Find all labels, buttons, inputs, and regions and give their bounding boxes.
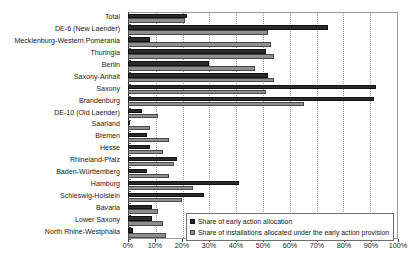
x-axis-tick-label: 40% — [229, 241, 243, 250]
bar — [128, 157, 177, 161]
bar — [128, 150, 163, 154]
x-axis-tick-label: 60% — [283, 241, 297, 250]
y-axis-category-label: Bavaria — [0, 203, 124, 215]
bar — [128, 181, 239, 185]
bar-row — [128, 36, 398, 48]
y-axis-category-label: Hesse — [0, 143, 124, 155]
bar-row — [128, 96, 398, 108]
bar — [128, 85, 376, 89]
bar-row — [128, 108, 398, 120]
bar — [128, 25, 328, 29]
x-axis-tick-label: 50% — [256, 241, 270, 250]
y-axis-category-label: Berlin — [0, 60, 124, 72]
bar — [128, 198, 182, 202]
x-axis-tick-labels: 0%10%20%30%40%50%60%70%80%90%100% — [128, 241, 398, 255]
bar — [128, 66, 255, 70]
y-axis-category-label: Rhineland-Pfalz — [0, 155, 124, 167]
y-axis-category-label: Baden-Württemberg — [0, 167, 124, 179]
bar — [128, 30, 268, 34]
y-axis-category-labels: TotalDE-6 (New Laender)Mecklenburg-Weste… — [0, 12, 124, 239]
y-axis-category-label: Hamburg — [0, 179, 124, 191]
y-axis-category-label: North Rhine-Westphalia — [0, 227, 124, 239]
y-axis-category-label: Bremen — [0, 131, 124, 143]
bar — [128, 14, 187, 18]
bar-row — [128, 84, 398, 96]
bar — [128, 73, 268, 77]
chart-legend: Share of early action allocation Share o… — [186, 213, 394, 241]
legend-item-early-action-allocation: Share of early action allocation — [190, 216, 389, 227]
bar — [128, 216, 152, 220]
bar — [128, 114, 158, 118]
figure-caption — [6, 262, 416, 271]
bar — [128, 174, 169, 178]
bar — [128, 205, 152, 209]
y-axis-category-label: DE-10 (Old Laender) — [0, 108, 124, 120]
bar-row — [128, 119, 398, 131]
bar — [128, 221, 163, 225]
y-axis-category-label: Thuringia — [0, 48, 124, 60]
bar-row — [128, 179, 398, 191]
bar — [128, 37, 150, 41]
bar-row — [128, 12, 398, 24]
bar — [128, 209, 158, 213]
x-axis-tick-label: 20% — [175, 241, 189, 250]
bar — [128, 126, 150, 130]
bar — [128, 186, 193, 190]
bar — [128, 138, 169, 142]
bar-row — [128, 60, 398, 72]
bar — [128, 109, 142, 113]
bar — [128, 169, 147, 173]
legend-swatch-dark-icon — [190, 219, 195, 224]
bar — [128, 228, 133, 232]
bar-row — [128, 131, 398, 143]
x-axis-tick-label: 100% — [389, 241, 407, 250]
x-axis-tick-label: 90% — [364, 241, 378, 250]
legend-item-installations-share: Share of installations allocated under t… — [190, 227, 389, 238]
bar-row — [128, 48, 398, 60]
y-axis-category-label: Schleswig-Holstein — [0, 191, 124, 203]
bar-row — [128, 72, 398, 84]
bar-row — [128, 191, 398, 203]
y-axis-category-label: Saxony-Anhalt — [0, 72, 124, 84]
plot-wrapper: TotalDE-6 (New Laender)Mecklenburg-Weste… — [0, 4, 419, 240]
bar-row — [128, 155, 398, 167]
legend-swatch-light-icon — [190, 230, 195, 235]
x-axis-tick-label: 80% — [337, 241, 351, 250]
bar — [128, 61, 209, 65]
bar — [128, 42, 271, 46]
y-axis-category-label: Lower Saxony — [0, 215, 124, 227]
y-axis-category-label: Mecklenburg-Western Pomerania — [0, 36, 124, 48]
x-axis-tick-label: 10% — [148, 241, 162, 250]
bar-row — [128, 24, 398, 36]
y-axis-category-label: Brandenburg — [0, 96, 124, 108]
bar — [128, 121, 130, 125]
y-axis-category-label: Total — [0, 12, 124, 24]
bar — [128, 97, 374, 101]
bar-rows — [128, 12, 398, 239]
chart-container: TotalDE-6 (New Laender)Mecklenburg-Weste… — [0, 0, 419, 271]
bar-row — [128, 143, 398, 155]
legend-label: Share of installations allocated under t… — [198, 229, 389, 236]
bar — [128, 49, 266, 53]
bar — [128, 162, 174, 166]
bar — [128, 18, 185, 22]
bar — [128, 193, 204, 197]
x-axis-tick-label: 30% — [202, 241, 216, 250]
x-axis-tick-label: 70% — [310, 241, 324, 250]
y-axis-category-label: Saxony — [0, 84, 124, 96]
bar — [128, 102, 304, 106]
x-axis-tick-label: 0% — [123, 241, 133, 250]
legend-label: Share of early action allocation — [198, 218, 292, 225]
bar — [128, 90, 266, 94]
bar — [128, 233, 166, 237]
bar — [128, 78, 274, 82]
bar — [128, 54, 274, 58]
y-axis-category-label: Saarland — [0, 119, 124, 131]
bar — [128, 145, 150, 149]
bar — [128, 133, 147, 137]
bar-row — [128, 167, 398, 179]
y-axis-category-label: DE-6 (New Laender) — [0, 24, 124, 36]
